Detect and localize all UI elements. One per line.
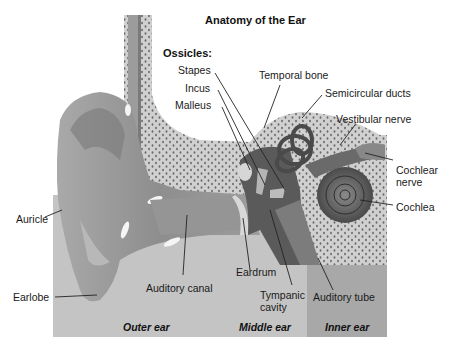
label-temporal-bone: Temporal bone [259,69,328,81]
label-tympanic-cavity-line2: cavity [260,301,287,313]
section-middle-ear: Middle ear [239,321,291,333]
malleus [238,163,252,181]
label-auricle: Auricle [16,213,48,225]
diagram-title: Anatomy of the Ear [205,14,306,26]
section-outer-ear: Outer ear [123,321,170,333]
label-semicircular-ducts: Semicircular ducts [325,87,411,99]
ear-anatomy-illustration [0,0,449,347]
label-cochlea: Cochlea [396,201,435,213]
section-inner-ear: Inner ear [325,321,369,333]
label-tympanic-cavity-line1: Tympanic [260,289,305,301]
label-earlobe: Earlobe [13,291,49,303]
label-vestibular-nerve: Vestibular nerve [336,113,411,125]
label-auditory-canal: Auditory canal [146,282,213,294]
label-stapes: Stapes [178,64,211,76]
label-incus: Incus [185,82,210,94]
label-cochlear-nerve-line2: nerve [396,176,422,188]
auditory-canal [150,195,242,235]
label-eardrum: Eardrum [236,266,276,278]
label-cochlear-nerve-line1: Cochlear [396,164,438,176]
label-malleus: Malleus [175,99,211,111]
cochlea [317,167,373,223]
label-auditory-tube: Auditory tube [313,291,375,303]
ossicles-heading: Ossicles: [163,47,212,59]
